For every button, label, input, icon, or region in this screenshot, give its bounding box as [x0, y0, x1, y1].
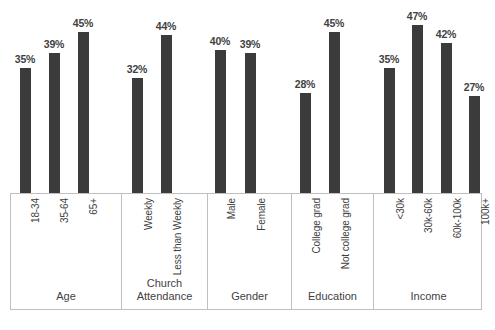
- bar-income-100k-: 27%: [469, 0, 480, 193]
- bar-value-label: 27%: [464, 81, 484, 93]
- tick-label: Female: [256, 198, 267, 231]
- group-title-line: Income: [374, 290, 483, 303]
- group-title: Age: [11, 290, 121, 303]
- group-title-line: Gender: [208, 290, 291, 303]
- bar-rect: [49, 53, 60, 193]
- plot-area: 35%39%45%32%44%40%39%28%45%35%47%42%27%: [0, 0, 495, 193]
- group-title: ChurchAttendance: [122, 277, 207, 303]
- bar-value-label: 42%: [436, 28, 456, 40]
- group-title-line: Attendance: [122, 290, 207, 303]
- bar-rect: [300, 93, 311, 193]
- bar-income-60k-100k: 42%: [441, 0, 452, 193]
- group-cell-age: 18-3435-6465+Age: [11, 194, 121, 309]
- tick-label: 60k-100k: [452, 198, 463, 238]
- bar-education-not-college-grad: 45%: [329, 0, 340, 193]
- tick-label: 65+: [88, 198, 99, 215]
- group-cell-church-attendance: WeeklyLess than WeeklyChurchAttendance: [121, 194, 207, 309]
- tick-label: Weekly: [143, 198, 154, 230]
- group-title: Gender: [208, 290, 291, 303]
- bar-value-label: 44%: [156, 20, 176, 32]
- tick-label: Male: [226, 198, 237, 219]
- tick-label: 100k+: [480, 198, 491, 225]
- category-axis-table: 18-3435-6465+AgeWeeklyLess than WeeklyCh…: [10, 193, 482, 310]
- group-cell-gender: MaleFemaleGender: [207, 194, 291, 309]
- bar-education-college-grad: 28%: [300, 0, 311, 193]
- bar-age-65-: 45%: [78, 0, 89, 193]
- bar-age-35-64: 39%: [49, 0, 60, 193]
- tick-label: 35-64: [59, 198, 70, 223]
- bar-value-label: 35%: [15, 53, 35, 65]
- group-cell-income: <30k30k-60k60k-100k100k+Income: [373, 194, 483, 309]
- bar-income--30k: 35%: [384, 0, 395, 193]
- tick-label: Less than Weekly: [172, 198, 183, 275]
- tick-label: Not college grad: [340, 198, 351, 269]
- bar-value-label: 32%: [127, 63, 147, 75]
- tick-label: 30k-60k: [423, 198, 434, 233]
- bar-rect: [78, 32, 89, 193]
- bar-church-attendance-weekly: 32%: [132, 0, 143, 193]
- bar-rect: [412, 25, 423, 193]
- bar-value-label: 40%: [210, 35, 230, 47]
- bar-value-label: 45%: [73, 17, 93, 29]
- bar-rect: [20, 68, 31, 193]
- bar-value-label: 47%: [407, 10, 427, 22]
- bar-value-label: 39%: [240, 38, 260, 50]
- bar-church-attendance-less-than-weekly: 44%: [161, 0, 172, 193]
- tick-label: College grad: [311, 198, 322, 254]
- group-title-line: Church: [122, 277, 207, 290]
- bar-gender-male: 40%: [215, 0, 226, 193]
- bar-rect: [161, 35, 172, 193]
- bar-rect: [329, 32, 340, 193]
- group-title: Education: [292, 290, 373, 303]
- group-title: Income: [374, 290, 483, 303]
- bar-rect: [384, 68, 395, 193]
- tick-label: <30k: [395, 198, 406, 220]
- bar-rect: [469, 96, 480, 193]
- group-title-line: Age: [11, 290, 121, 303]
- bar-value-label: 39%: [44, 38, 64, 50]
- group-cell-education: College gradNot college gradEducation: [291, 194, 373, 309]
- grouped-bar-chart: 35%39%45%32%44%40%39%28%45%35%47%42%27% …: [0, 0, 495, 330]
- bar-value-label: 45%: [324, 17, 344, 29]
- bar-age-18-34: 35%: [20, 0, 31, 193]
- bar-rect: [245, 53, 256, 193]
- tick-label: 18-34: [30, 198, 41, 223]
- bar-income-30k-60k: 47%: [412, 0, 423, 193]
- bar-gender-female: 39%: [245, 0, 256, 193]
- bar-value-label: 28%: [295, 78, 315, 90]
- bar-value-label: 35%: [379, 53, 399, 65]
- bar-rect: [215, 50, 226, 193]
- group-title-line: Education: [292, 290, 373, 303]
- bar-rect: [441, 43, 452, 193]
- bar-rect: [132, 78, 143, 193]
